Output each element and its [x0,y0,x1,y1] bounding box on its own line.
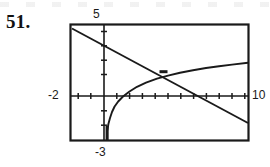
asymptote-pixel-column [106,126,109,140]
figure-page: 51. [0,0,270,167]
axis-label-y-min: -3 [95,146,106,158]
axis-label-y-max: 5 [93,8,100,20]
intersection-marker [160,70,168,73]
graph-canvas [0,0,270,167]
axis-label-x-max: 10 [252,89,265,101]
calculator-graph-figure: 5 -2 10 -3 [0,0,270,167]
axis-label-x-min: -2 [48,89,59,101]
